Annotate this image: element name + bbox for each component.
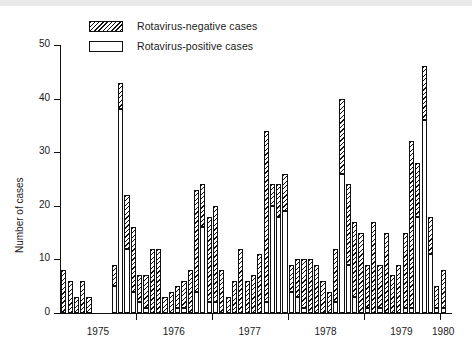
stacked-bar: [390, 275, 395, 313]
bar-segment-negative: [415, 163, 420, 217]
bar-segment-negative: [358, 233, 363, 313]
stacked-bar: [333, 249, 338, 313]
bar-segment-positive: [131, 292, 136, 313]
stacked-bar: [384, 233, 389, 313]
bar-segment-negative: [219, 270, 224, 313]
y-tick-mark: [54, 313, 60, 314]
bar-segment-positive: [112, 286, 117, 313]
bar-segment-positive: [339, 174, 344, 313]
stacked-bar: [396, 265, 401, 313]
y-tick-label: 10: [28, 252, 50, 263]
stacked-bar: [371, 222, 376, 313]
bar-segment-negative: [175, 286, 180, 307]
legend-swatch-positive-icon: [89, 41, 123, 52]
x-tick-label: 1978: [306, 326, 346, 337]
bar-segment-negative: [320, 281, 325, 313]
bar-segment-negative: [270, 184, 275, 205]
stacked-bar: [358, 233, 363, 313]
stacked-bar: [200, 184, 205, 313]
bar-segment-negative: [282, 174, 287, 212]
bar-segment-positive: [352, 297, 357, 313]
bar-segment-negative: [422, 66, 427, 120]
bar-segment-negative: [257, 254, 262, 313]
y-tick-mark: [54, 99, 60, 100]
stacked-bar: [118, 83, 123, 313]
bar-segment-positive: [213, 302, 218, 313]
rotavirus-cases-chart: Rotavirus-negative cases Rotavirus-posit…: [0, 0, 472, 353]
bar-segment-negative: [137, 275, 142, 302]
bar-segment-positive: [264, 302, 269, 313]
bar-segment-positive: [143, 308, 148, 313]
stacked-bar: [289, 265, 294, 313]
legend-label-positive: Rotavirus-positive cases: [137, 40, 253, 52]
bar-segment-negative: [441, 270, 446, 308]
bar-segment-negative: [371, 222, 376, 313]
stacked-bar: [80, 281, 85, 313]
stacked-bar: [156, 249, 161, 313]
bar-segment-negative: [409, 141, 414, 307]
y-tick-label: 0: [28, 306, 50, 317]
stacked-bar: [377, 265, 382, 313]
x-tick-mark: [440, 313, 441, 320]
stacked-bar: [188, 270, 193, 313]
scan-edge-band: [0, 0, 472, 6]
stacked-bar: [352, 222, 357, 313]
legend-item-negative: Rotavirus-negative cases: [89, 20, 257, 32]
stacked-bar: [264, 131, 269, 313]
y-tick-mark: [54, 206, 60, 207]
stacked-bar: [276, 184, 281, 313]
stacked-bar: [131, 227, 136, 313]
bar-segment-negative: [68, 281, 73, 313]
stacked-bar: [112, 265, 117, 313]
stacked-bar: [219, 270, 224, 313]
stacked-bar: [308, 259, 313, 313]
stacked-bar: [143, 275, 148, 313]
stacked-bar: [175, 286, 180, 313]
bar-segment-positive: [301, 308, 306, 313]
stacked-bar: [346, 184, 351, 313]
stacked-bar: [74, 297, 79, 313]
y-axis-title: Number of cases: [14, 177, 25, 253]
bar-segment-negative: [194, 190, 199, 292]
x-tick-mark: [364, 313, 365, 320]
bar-segment-negative: [86, 297, 91, 313]
x-axis-line: [60, 313, 452, 314]
stacked-bar: [320, 281, 325, 313]
stacked-bar: [162, 297, 167, 313]
bar-segment-positive: [365, 308, 370, 313]
bar-segment-negative: [181, 281, 186, 308]
bar-segment-negative: [80, 281, 85, 313]
stacked-bar: [137, 275, 142, 313]
bar-segment-positive: [289, 292, 294, 313]
y-tick-mark: [54, 259, 60, 260]
bar-segment-negative: [390, 275, 395, 313]
bar-segment-negative: [384, 233, 389, 313]
bar-segment-negative: [188, 270, 193, 313]
bar-segment-negative: [251, 275, 256, 313]
stacked-bar: [194, 190, 199, 313]
stacked-bar: [251, 275, 256, 313]
bar-segment-negative: [150, 249, 155, 313]
bar-segment-negative: [301, 259, 306, 307]
stacked-bar: [441, 270, 446, 313]
legend-item-positive: Rotavirus-positive cases: [89, 40, 253, 52]
stacked-bar: [415, 163, 420, 313]
stacked-bar: [245, 281, 250, 313]
bar-segment-negative: [276, 184, 281, 216]
stacked-bar: [327, 292, 332, 313]
x-tick-label: 1976: [154, 326, 194, 337]
stacked-bar: [207, 217, 212, 313]
bar-segment-negative: [295, 259, 300, 297]
bar-segment-positive: [333, 302, 338, 313]
bar-segment-negative: [308, 259, 313, 313]
stacked-bar: [124, 195, 129, 313]
bar-segment-positive: [282, 211, 287, 313]
bar-segment-positive: [181, 308, 186, 313]
bar-segment-negative: [74, 297, 79, 313]
x-tick-mark: [136, 313, 137, 320]
stacked-bar: [365, 265, 370, 313]
bar-segment-positive: [409, 308, 414, 313]
stacked-bar: [428, 217, 433, 313]
x-tick-label: 1977: [230, 326, 270, 337]
stacked-bar: [257, 254, 262, 313]
